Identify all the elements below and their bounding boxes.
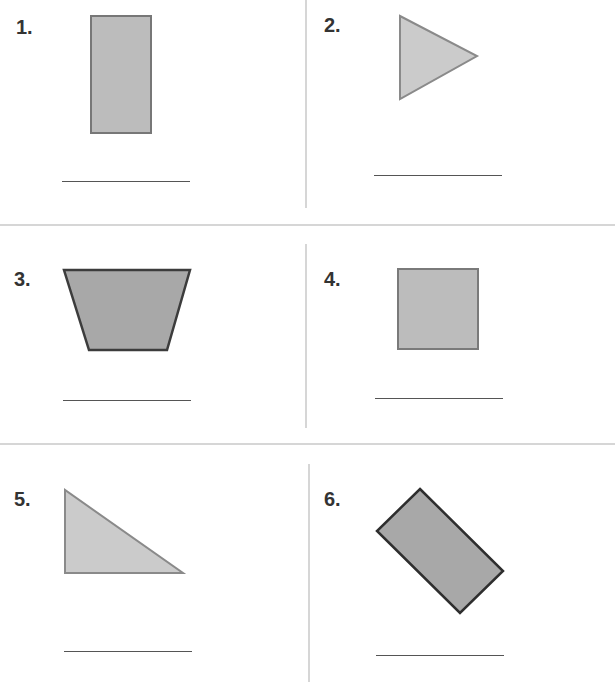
answer-line-6[interactable] (376, 655, 504, 656)
answer-line-1[interactable] (62, 181, 190, 182)
answer-line-5[interactable] (64, 651, 192, 652)
rectangle-shape (91, 16, 151, 133)
item-number-4: 4. (324, 268, 341, 291)
shapes-canvas (0, 0, 615, 682)
item-number-6: 6. (324, 488, 341, 511)
item-number-2: 2. (324, 14, 341, 37)
item-number-3: 3. (14, 268, 31, 291)
answer-line-2[interactable] (374, 175, 502, 176)
square-shape (398, 269, 478, 349)
answer-line-3[interactable] (63, 400, 191, 401)
answer-line-4[interactable] (375, 398, 503, 399)
item-number-1: 1. (16, 16, 33, 39)
triangle-shape (400, 16, 477, 99)
right-triangle-shape (65, 490, 183, 573)
rotated-rectangle-shape (377, 489, 503, 613)
trapezoid-shape (64, 270, 190, 350)
item-number-5: 5. (14, 488, 31, 511)
